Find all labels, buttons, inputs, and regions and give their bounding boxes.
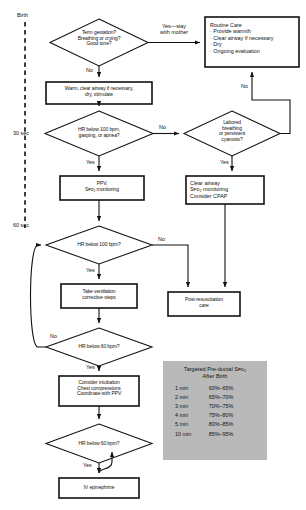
flowchart-canvas: Birth 30 sec 60 sec Term gestation? Brea… [0,0,306,510]
table-row: 1 min 60%–65% [163,383,267,392]
table-row: 4 min 75%–80% [163,411,267,420]
edge-hr100-to-post-resus [152,245,188,287]
edge-label-hr60b-yes: Yes [83,463,92,469]
edge-label-assessment-no: No [86,68,93,74]
edge-label-hr60a-yes: Yes [86,365,95,371]
edge-label-hr60a-no: No [50,334,57,340]
timeline-label-30sec: 30 sec [13,130,29,136]
spo2-panel-caption: Targeted Pre-ductal Sᴘo₂ After Birth [163,366,267,380]
table-row: 5 min 80%–85% [163,420,267,429]
hr100-text: HR below 100 bpm? [55,242,143,248]
edge-label-hr100apnea-no: No [159,125,166,131]
warm-stimulate-text: Warm, clear airway if necessary, dry, st… [47,86,151,97]
assessment-diamond-text: Term gestation? Breathing or crying? Goo… [51,30,147,47]
edge-label-hr100apnea-yes: Yes [86,160,95,166]
table-row: 2 min 65%–70% [163,392,267,401]
edge-label-assessment-yes: Yes—stay with mother [151,24,197,35]
ppv-text: PPV, Sᴘo₂ monitoring [61,181,143,192]
hr60a-text: HR below 60 bpm? [55,344,143,350]
iv-epinephrine-text: IV epinephrine [60,485,138,491]
targeted-preductal-spo2-panel: Targeted Pre-ductal Sᴘo₂ After Birth 1 m… [163,361,267,460]
hr60b-text: HR below 60 bpm? [55,441,143,447]
clear-airway-text: Clear airway Sᴘo₂ monitoring Consider CP… [190,180,264,199]
labored-breathing-text: Labored breathing or persistent cyanosis… [197,120,267,142]
post-resuscitation-text: Post-resuscitation care [169,297,239,308]
intubation-text: Consider intubation Chest compressions C… [60,380,138,397]
table-row: 10 min 85%–95% [163,429,267,438]
spo2-table: 1 min 60%–65% 2 min 65%–70% 3 min 70%–75… [163,383,267,438]
timeline-label-60sec: 60 sec [13,222,29,228]
hr100apnea-text: HR below 100 bpm, gasping, or apnea? [52,127,146,138]
edge-label-hr100-yes: Yes [86,268,95,274]
corrective-steps-text: Take ventilation corrective steps [62,289,136,300]
edge-hr60a-loopback-to-hr100 [31,245,47,347]
edge-label-labored-yes: Yes [220,160,229,166]
edge-label-labored-no: No [241,84,248,90]
timeline-label-birth: Birth [17,12,28,18]
edge-label-hr100-no: No [158,237,165,243]
routine-care-text: Routine Care · Provide warmth · Clear ai… [210,22,298,54]
table-row: 3 min 70%–75% [163,401,267,410]
